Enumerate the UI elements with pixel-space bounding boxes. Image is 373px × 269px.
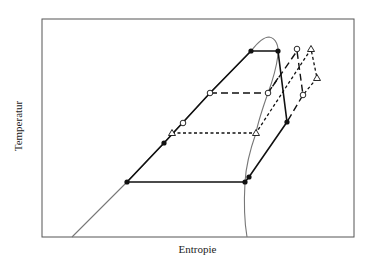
dotted-cycle-line bbox=[172, 49, 317, 133]
saturation-dome bbox=[72, 37, 278, 237]
x-axis-label: Entropie bbox=[0, 243, 373, 255]
ts-diagram bbox=[0, 0, 373, 269]
open-triangle-markers bbox=[169, 46, 321, 136]
y-axis-label: Temperatur bbox=[12, 86, 24, 166]
solid-dot-markers bbox=[124, 48, 289, 184]
main-cycle-line bbox=[127, 51, 287, 182]
dashed-cycle-line bbox=[210, 51, 303, 122]
